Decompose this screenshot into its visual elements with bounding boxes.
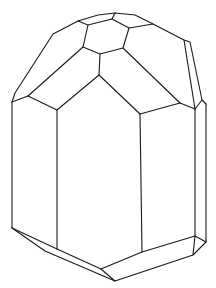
edge bbox=[140, 103, 180, 114]
edge bbox=[78, 21, 88, 25]
edge bbox=[112, 13, 115, 19]
edge bbox=[180, 103, 195, 109]
edge bbox=[28, 47, 83, 96]
outline-top-edge bbox=[12, 13, 206, 104]
top-hexagon-face bbox=[83, 19, 129, 54]
edge bbox=[28, 96, 57, 110]
bottom-edge bbox=[101, 242, 206, 281]
edge bbox=[129, 24, 153, 28]
edge bbox=[12, 96, 28, 102]
edge bbox=[123, 48, 180, 103]
edge bbox=[195, 100, 202, 109]
edge bbox=[99, 75, 140, 114]
edge bbox=[184, 40, 195, 109]
crystal-drawing bbox=[0, 0, 216, 288]
edge bbox=[57, 75, 99, 110]
edge bbox=[193, 236, 195, 255]
prism-edge bbox=[140, 114, 142, 252]
edge bbox=[99, 54, 100, 75]
bottom-edge bbox=[101, 236, 206, 269]
bottom-edge bbox=[12, 228, 115, 281]
